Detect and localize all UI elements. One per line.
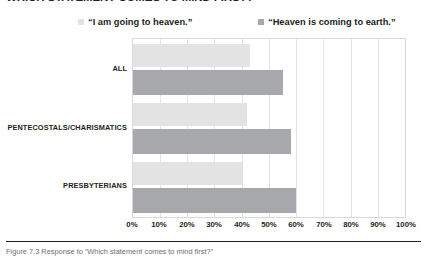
x-tick-label: 60% [288,220,304,229]
y-axis-category-labels: ALL PENTECOSTALS/CHARISMATICS PRESBYTERI… [0,38,127,218]
legend-item-heaven-coming-to-earth: “Heaven is coming to earth.” [258,15,396,29]
x-tick-label: 0% [126,220,137,229]
legend-item-going-to-heaven: “I am going to heaven.” [78,15,192,29]
bar-pentecostals-going-to-heaven [133,103,247,126]
x-tick-label: 100% [396,220,416,229]
bars-layer [133,39,405,217]
x-axis-tick-labels: 0% 10% 20% 30% 40% 50% 60% 70% 80% 90% 1… [132,220,406,232]
legend-item-label: “I am going to heaven.” [88,17,192,28]
chart-title: WHICH STATEMENT COMES TO MIND FIRST? [6,0,426,3]
bar-presbyterians-heaven-coming-to-earth [133,188,296,213]
legend-swatch-icon [258,19,264,25]
bar-presbyterians-going-to-heaven [133,162,242,185]
category-label-pentecostals-charismatics: PENTECOSTALS/CHARISMATICS [4,123,127,132]
legend-item-label: “Heaven is coming to earth.” [268,17,396,28]
bar-all-going-to-heaven [133,44,250,67]
x-tick-label: 50% [261,220,277,229]
x-tick-label: 20% [179,220,195,229]
legend-swatch-icon [78,19,84,25]
x-tick-label: 80% [343,220,359,229]
category-label-all: ALL [4,64,127,73]
category-label-presbyterians: PRESBYTERIANS [4,181,127,190]
x-tick-label: 70% [316,220,332,229]
x-tick-label: 90% [370,220,386,229]
bar-pentecostals-heaven-coming-to-earth [133,129,291,154]
chart-legend: “I am going to heaven.” “Heaven is comin… [78,15,423,29]
figure-caption: Figure 7.3 Response to “Which statement … [6,247,421,257]
chart-figure: WHICH STATEMENT COMES TO MIND FIRST? “I … [0,0,427,257]
x-tick-label: 30% [206,220,222,229]
x-tick-label: 10% [151,220,167,229]
x-tick-label: 40% [234,220,250,229]
bar-all-heaven-coming-to-earth [133,70,283,95]
footer-divider [6,241,421,242]
